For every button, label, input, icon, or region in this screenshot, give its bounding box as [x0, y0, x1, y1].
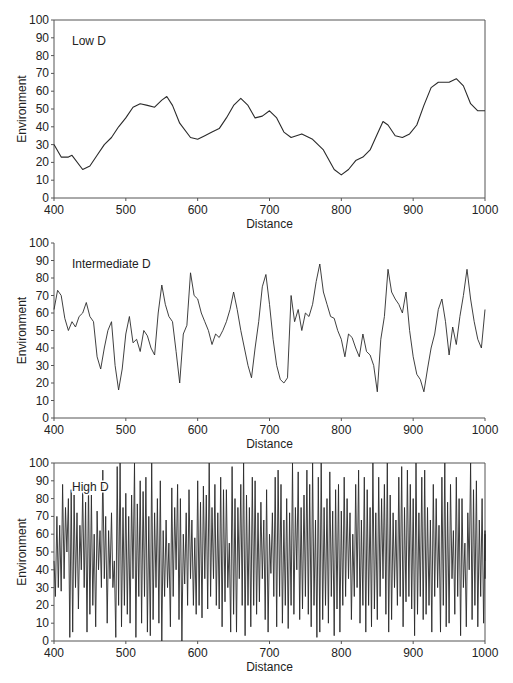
- x-tick-label: 700: [259, 646, 279, 660]
- y-tick-label: 10: [36, 173, 50, 187]
- y-tick-label: 50: [36, 102, 50, 116]
- x-tick-label: 800: [331, 646, 351, 660]
- panel-title: High D: [72, 480, 109, 494]
- y-axis-title: Environment: [15, 296, 29, 364]
- intermediate-d-plot: 0102030405060708090100400500600700800900…: [0, 225, 513, 450]
- data-line: [54, 463, 485, 641]
- y-tick-label: 80: [36, 49, 50, 63]
- x-tick-label: 1000: [472, 203, 499, 217]
- x-tick-label: 600: [188, 203, 208, 217]
- y-tick-label: 20: [36, 155, 50, 169]
- y-tick-label: 40: [36, 563, 50, 577]
- y-tick-label: 50: [36, 324, 50, 338]
- x-tick-label: 400: [44, 203, 64, 217]
- x-tick-label: 400: [44, 423, 64, 437]
- y-tick-label: 80: [36, 271, 50, 285]
- y-tick-label: 20: [36, 376, 50, 390]
- y-tick-label: 70: [36, 66, 50, 80]
- x-tick-label: 900: [403, 423, 423, 437]
- x-tick-label: 500: [116, 203, 136, 217]
- y-tick-label: 90: [36, 31, 50, 45]
- x-tick-label: 800: [331, 423, 351, 437]
- x-tick-label: 700: [259, 423, 279, 437]
- y-tick-label: 100: [29, 13, 49, 27]
- x-tick-label: 900: [403, 646, 423, 660]
- y-tick-label: 10: [36, 394, 50, 408]
- y-tick-label: 50: [36, 545, 50, 559]
- x-tick-label: 400: [44, 646, 64, 660]
- high-d-plot: 0102030405060708090100400500600700800900…: [0, 450, 513, 683]
- y-tick-label: 30: [36, 581, 50, 595]
- y-tick-label: 40: [36, 341, 50, 355]
- y-tick-label: 30: [36, 138, 50, 152]
- chart-low-d: 0102030405060708090100400500600700800900…: [0, 0, 513, 225]
- y-tick-label: 70: [36, 509, 50, 523]
- x-tick-label: 500: [116, 646, 136, 660]
- panel-title: Intermediate D: [72, 257, 151, 271]
- y-tick-label: 60: [36, 527, 50, 541]
- x-tick-label: 600: [188, 646, 208, 660]
- data-line: [54, 79, 485, 175]
- y-tick-label: 90: [36, 254, 50, 268]
- y-tick-label: 60: [36, 306, 50, 320]
- y-tick-label: 20: [36, 598, 50, 612]
- x-tick-label: 800: [331, 203, 351, 217]
- y-axis-title: Environment: [15, 75, 29, 143]
- y-tick-label: 40: [36, 120, 50, 134]
- x-tick-label: 500: [116, 423, 136, 437]
- data-line: [54, 264, 485, 392]
- y-tick-label: 10: [36, 616, 50, 630]
- x-tick-label: 600: [188, 423, 208, 437]
- x-tick-label: 900: [403, 203, 423, 217]
- y-tick-label: 100: [29, 456, 49, 470]
- chart-high-d: 0102030405060708090100400500600700800900…: [0, 450, 513, 683]
- x-tick-label: 700: [259, 203, 279, 217]
- x-tick-label: 1000: [472, 423, 499, 437]
- low-d-plot: 0102030405060708090100400500600700800900…: [0, 0, 513, 225]
- y-tick-label: 30: [36, 359, 50, 373]
- y-tick-label: 90: [36, 474, 50, 488]
- y-tick-label: 60: [36, 84, 50, 98]
- y-tick-label: 80: [36, 492, 50, 506]
- x-axis-title: Distance: [246, 660, 293, 674]
- panel-title: Low D: [72, 34, 106, 48]
- x-tick-label: 1000: [472, 646, 499, 660]
- x-axis-title: Distance: [246, 437, 293, 451]
- chart-intermediate-d: 0102030405060708090100400500600700800900…: [0, 225, 513, 450]
- y-tick-label: 100: [29, 236, 49, 250]
- y-axis-title: Environment: [15, 518, 29, 586]
- y-tick-label: 70: [36, 289, 50, 303]
